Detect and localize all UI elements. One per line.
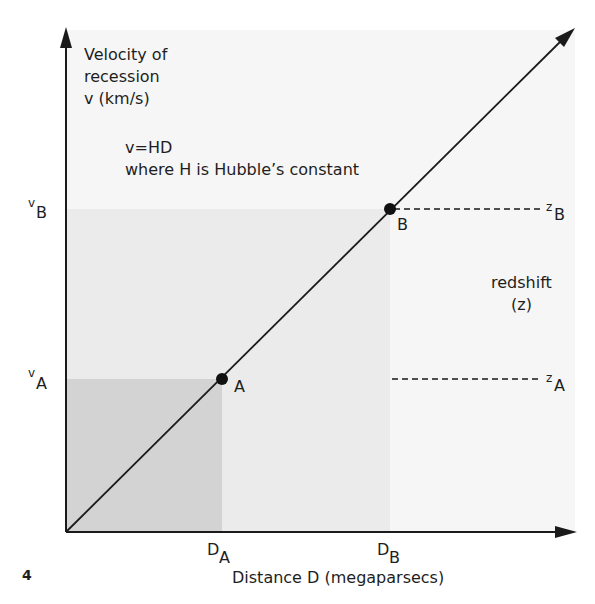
x-axis-label: Distance D (megaparsecs) <box>232 568 444 587</box>
redshift-label-line-2: (z) <box>511 295 532 314</box>
equation-line-2: where H is Hubble’s constant <box>125 160 359 179</box>
svg-text:A: A <box>36 374 47 393</box>
point-a-label: A <box>234 377 245 396</box>
point-b-marker <box>384 203 396 215</box>
svg-text:z: z <box>546 371 552 385</box>
svg-text:z: z <box>546 200 552 214</box>
svg-text:A: A <box>219 548 230 567</box>
svg-text:B: B <box>36 203 47 222</box>
y-axis-label-line-1: Velocity of <box>84 45 168 64</box>
redshift-label-line-1: redshift <box>491 273 552 292</box>
svg-text:D: D <box>377 540 389 559</box>
equation-line-1: v=HD <box>125 138 172 157</box>
y-tick-va: v A <box>28 366 47 393</box>
svg-text:D: D <box>207 540 219 559</box>
svg-text:A: A <box>554 376 565 395</box>
y-axis-label-line-3: v (km/s) <box>84 89 150 108</box>
point-b-label: B <box>397 215 408 234</box>
svg-text:v: v <box>28 366 35 380</box>
svg-text:B: B <box>554 205 565 224</box>
y-tick-vb: v B <box>28 196 47 222</box>
figure-number: 4 <box>22 567 32 583</box>
x-tick-da: D A <box>207 540 230 567</box>
svg-text:v: v <box>28 196 35 210</box>
x-tick-db: D B <box>377 540 400 567</box>
hubble-law-diagram: A B Velocity of recession v (km/s) v=HD … <box>0 0 595 604</box>
svg-text:B: B <box>389 548 400 567</box>
y-axis-label-line-2: recession <box>84 67 160 86</box>
point-a-marker <box>216 373 228 385</box>
